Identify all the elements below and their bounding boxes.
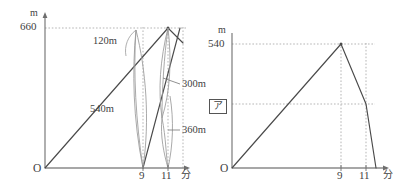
left-y-tick-660: 660 [20, 21, 37, 32]
right-y-axis-unit: m [218, 25, 226, 35]
figure-canvas [0, 0, 406, 190]
left-brace-300m [160, 28, 168, 118]
left-brace-360m [161, 118, 168, 168]
right-peak-point [340, 43, 343, 46]
left-annotation-300m: 300m [182, 79, 206, 90]
figure-root: m 660 O 9 11 分 120m 540m 300m 360m m 540… [0, 0, 406, 190]
left-origin-label: O [33, 163, 41, 175]
right-x-tick-9: 9 [337, 170, 343, 181]
left-x-axis-unit: 分 [181, 170, 191, 180]
right-chart-group [232, 33, 389, 171]
left-y-axis-arrow [43, 12, 48, 18]
right-x-tick-11: 11 [359, 170, 370, 181]
left-brace-360m-lower [168, 96, 172, 168]
left-annotation-120m: 120m [93, 36, 117, 47]
right-y-tick-540: 540 [208, 38, 225, 49]
left-y-axis-unit: m [30, 8, 38, 18]
right-series-line [232, 44, 376, 168]
right-origin-label: O [220, 163, 228, 175]
left-x-tick-9: 9 [139, 170, 145, 181]
unknown-value-box: ア [209, 99, 227, 114]
left-brace-540m-mirror [136, 30, 147, 168]
left-series-line-b [143, 28, 180, 168]
left-annotation-540m: 540m [90, 104, 114, 115]
right-y-tick-box: ア [209, 96, 227, 114]
right-x-axis-unit: 分 [383, 170, 393, 180]
left-brace-540m [134, 30, 143, 168]
left-x-tick-11: 11 [161, 170, 172, 181]
left-annotation-360m: 360m [182, 125, 206, 136]
